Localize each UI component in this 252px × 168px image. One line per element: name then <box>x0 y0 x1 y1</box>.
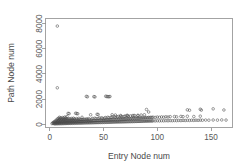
y-tick-label: 6000 <box>36 39 45 58</box>
x-axis-title: Entry Node num <box>108 151 170 161</box>
x-tick-label: 0 <box>48 133 53 142</box>
scatter-plot-figure: 02000400060008000 050100150 Entry Node n… <box>0 0 252 168</box>
plot-canvas: 02000400060008000 050100150 Entry Node n… <box>0 0 252 168</box>
x-tick-label: 100 <box>150 133 164 142</box>
x-tick-label: 50 <box>99 133 109 142</box>
x-tick-label: 150 <box>204 133 218 142</box>
y-axis-title: Path Node num <box>6 43 16 103</box>
y-tick-label: 8000 <box>36 14 45 33</box>
y-tick-label: 2000 <box>36 90 45 109</box>
y-tick-label: 4000 <box>36 64 45 83</box>
y-tick-label: 0 <box>36 122 45 127</box>
